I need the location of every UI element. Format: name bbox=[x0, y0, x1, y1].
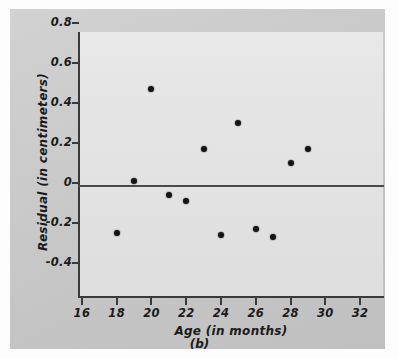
x-tick-mark bbox=[185, 298, 187, 305]
y-tick-label: 0.8 bbox=[32, 15, 72, 29]
y-tick-mark bbox=[72, 262, 79, 264]
y-tick-mark bbox=[72, 62, 79, 64]
y-tick-label-wrap: 0.8 bbox=[28, 15, 72, 29]
x-tick-mark bbox=[324, 298, 326, 305]
y-tick-label-wrap: -0.2 bbox=[28, 215, 72, 229]
x-tick-mark bbox=[220, 298, 222, 305]
residual-plot-figure: 0.80.60.40.20-0.2-0.4 161820222426283032… bbox=[0, 0, 399, 359]
scatter-point bbox=[305, 146, 311, 152]
x-tick-mark bbox=[81, 298, 83, 305]
plot-panel bbox=[78, 32, 383, 297]
x-axis-line bbox=[78, 296, 384, 298]
y-tick-label-wrap: 0 bbox=[28, 175, 72, 189]
x-tick-mark bbox=[359, 298, 361, 305]
zero-residual-line bbox=[79, 185, 384, 187]
x-tick-mark bbox=[255, 298, 257, 305]
x-tick-mark bbox=[290, 298, 292, 305]
y-tick-mark bbox=[72, 222, 79, 224]
scatter-point bbox=[253, 226, 259, 232]
y-tick-mark bbox=[72, 22, 79, 24]
scatter-point bbox=[288, 160, 294, 166]
y-axis-line bbox=[78, 32, 80, 298]
scatter-point bbox=[166, 192, 172, 198]
y-tick-label-wrap: 0.4 bbox=[28, 95, 72, 109]
y-axis-title: Residual (in centimeters) bbox=[36, 47, 50, 277]
x-tick-label: 16 bbox=[65, 306, 99, 320]
x-tick-label: 24 bbox=[204, 306, 238, 320]
figure-caption: (b) bbox=[0, 337, 399, 351]
x-axis-title: Age (in months) bbox=[78, 324, 384, 338]
y-tick-label-wrap: 0.6 bbox=[28, 55, 72, 69]
x-tick-label: 18 bbox=[100, 306, 134, 320]
x-tick-label: 28 bbox=[274, 306, 308, 320]
x-tick-label: 22 bbox=[169, 306, 203, 320]
x-tick-label: 30 bbox=[308, 306, 342, 320]
y-tick-mark bbox=[72, 182, 79, 184]
y-tick-label-wrap: -0.4 bbox=[28, 255, 72, 269]
figure-card: 0.80.60.40.20-0.2-0.4 161820222426283032… bbox=[10, 9, 385, 349]
y-tick-mark bbox=[72, 102, 79, 104]
x-tick-label: 20 bbox=[134, 306, 168, 320]
x-tick-mark bbox=[150, 298, 152, 305]
scatter-point bbox=[201, 146, 207, 152]
x-tick-label: 32 bbox=[343, 306, 377, 320]
y-tick-mark bbox=[72, 142, 79, 144]
scatter-point bbox=[218, 232, 224, 238]
x-tick-label: 26 bbox=[239, 306, 273, 320]
y-tick-label-wrap: 0.2 bbox=[28, 135, 72, 149]
scatter-point bbox=[114, 230, 120, 236]
x-tick-mark bbox=[116, 298, 118, 305]
